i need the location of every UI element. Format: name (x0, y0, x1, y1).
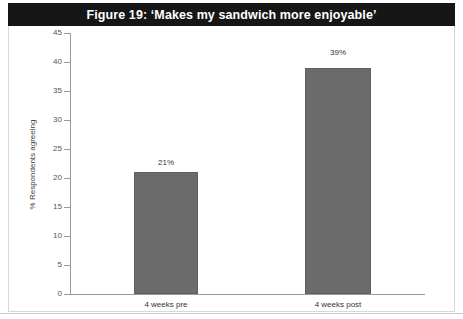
x-category-label-4-weeks-post: 4 weeks post (278, 300, 398, 309)
y-tick-25 (64, 149, 70, 150)
y-tick-label-0: 0 (40, 290, 62, 298)
y-tick-35 (64, 91, 70, 92)
bar-value-label-4-weeks-pre: 21% (136, 158, 196, 167)
y-tick-30 (64, 120, 70, 121)
y-tick-40 (64, 62, 70, 63)
page-bottom-rule (0, 313, 463, 314)
bar-value-label-4-weeks-post: 39% (308, 48, 368, 57)
y-tick-label-5: 5 (40, 261, 62, 269)
y-tick-label-40: 40 (40, 58, 62, 66)
y-tick-10 (64, 236, 70, 237)
x-category-label-4-weeks-pre: 4 weeks pre (106, 300, 226, 309)
y-axis-title: % Respondents agreeing (28, 105, 37, 225)
y-tick-15 (64, 207, 70, 208)
bar-4-weeks-post[interactable] (305, 68, 371, 294)
bar-4-weeks-pre[interactable] (134, 172, 198, 294)
y-tick-label-30: 30 (40, 116, 62, 124)
y-axis-line (70, 33, 71, 295)
bar-chart-plot: % Respondents agreeing 45 40 35 30 25 20… (0, 0, 463, 319)
y-tick-label-45: 45 (40, 29, 62, 37)
y-tick-45 (64, 33, 70, 34)
y-tick-label-25: 25 (40, 145, 62, 153)
x-axis-line (70, 294, 425, 295)
y-tick-20 (64, 178, 70, 179)
y-tick-label-15: 15 (40, 203, 62, 211)
y-tick-label-10: 10 (40, 232, 62, 240)
y-tick-label-20: 20 (40, 174, 62, 182)
y-tick-0 (64, 294, 70, 295)
y-tick-5 (64, 265, 70, 266)
y-tick-label-35: 35 (40, 87, 62, 95)
